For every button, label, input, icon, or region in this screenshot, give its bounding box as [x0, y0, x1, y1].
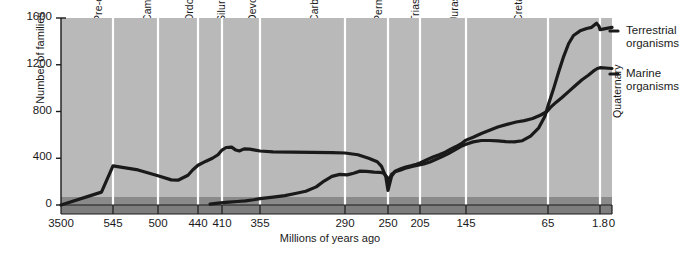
plot-area — [0, 0, 687, 255]
baseline-strip — [61, 197, 612, 205]
chart-figure: Number of families Millions of years ago… — [0, 0, 687, 255]
plot-background — [61, 18, 612, 205]
x-axis-bar — [61, 205, 612, 214]
